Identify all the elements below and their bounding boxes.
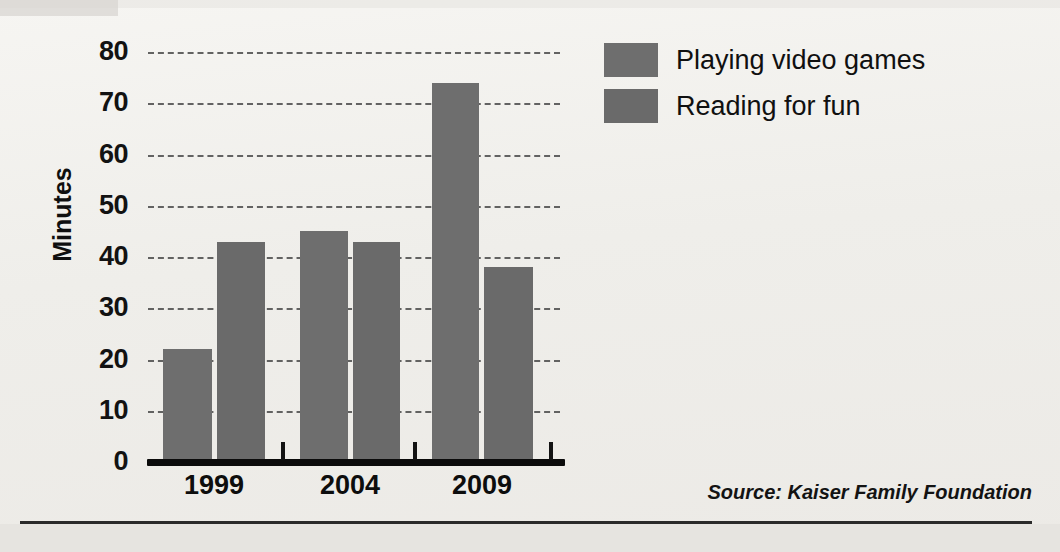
x-axis-label-1999: 1999 xyxy=(154,470,274,501)
x-axis-label-2009: 2009 xyxy=(422,470,542,501)
legend-swatch-icon xyxy=(604,89,658,123)
y-axis-tick-label: 60 xyxy=(58,141,128,168)
bar-1999-reading xyxy=(217,242,265,462)
x-axis-tick xyxy=(549,442,553,460)
y-axis-tick-label: 50 xyxy=(58,192,128,219)
y-axis-tick-label: 80 xyxy=(58,38,128,65)
x-axis-tick xyxy=(413,442,417,460)
bar-2004-video-games xyxy=(300,231,348,462)
y-axis-tick-label: 40 xyxy=(58,243,128,270)
bar-2009-video-games xyxy=(432,83,479,462)
y-axis-tick-label: 30 xyxy=(58,294,128,321)
legend-label: Reading for fun xyxy=(676,93,861,120)
bar-2009-reading xyxy=(484,267,533,462)
gridline xyxy=(148,155,560,157)
legend-swatch-icon xyxy=(604,43,658,77)
bar-2004-reading xyxy=(353,242,400,462)
y-axis-tick-label: 70 xyxy=(58,89,128,116)
chart-legend: Playing video gamesReading for fun xyxy=(604,40,925,132)
chart-page: Minutes 80706050403020100 199920042009 P… xyxy=(0,0,1060,552)
legend-label: Playing video games xyxy=(676,47,925,74)
page-bottom-margin xyxy=(0,524,1060,552)
legend-item: Playing video games xyxy=(604,40,925,80)
legend-item: Reading for fun xyxy=(604,86,925,126)
y-axis-tick-label: 0 xyxy=(58,448,128,475)
x-axis-tick xyxy=(281,442,285,460)
source-attribution: Source: Kaiser Family Foundation xyxy=(707,481,1032,504)
gridline xyxy=(148,103,560,105)
gridline xyxy=(148,206,560,208)
y-axis-tick-label: 20 xyxy=(58,346,128,373)
y-axis-tick-label: 10 xyxy=(58,397,128,424)
bar-1999-video-games xyxy=(163,349,212,462)
gridline xyxy=(148,52,560,54)
x-axis-baseline xyxy=(147,459,565,466)
x-axis-label-2004: 2004 xyxy=(290,470,410,501)
